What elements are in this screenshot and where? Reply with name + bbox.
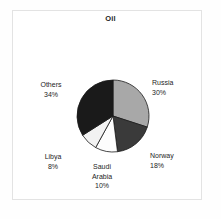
slice-label-libya-name: Libya xyxy=(45,153,62,160)
slice-label-saudi-arabia-name: Saudi Arabia xyxy=(92,163,112,180)
slice-label-norway-percent: 18% xyxy=(150,161,174,171)
slice-label-libya-percent: 8% xyxy=(38,162,68,172)
slice-label-russia-name: Russia xyxy=(152,79,173,86)
pie-chart-plot xyxy=(76,79,150,153)
slice-label-saudi-arabia-percent: 10% xyxy=(84,181,120,191)
slice-label-libya: Libya 8% xyxy=(38,152,68,171)
pie-chart-figure: Oil Russia 30% Norway 18% Saudi Arabia 1… xyxy=(0,0,221,219)
slice-label-saudi-arabia: Saudi Arabia 10% xyxy=(84,162,120,191)
slice-label-norway: Norway 18% xyxy=(150,151,174,170)
pie-slices xyxy=(77,80,149,152)
slice-label-russia-percent: 30% xyxy=(152,88,173,98)
chart-title: Oil xyxy=(0,14,221,23)
slice-label-russia: Russia 30% xyxy=(152,78,173,97)
slice-label-others-name: Others xyxy=(40,81,61,88)
slice-label-others-percent: 34% xyxy=(30,90,72,100)
slice-label-others: Others 34% xyxy=(30,80,72,99)
pie-svg xyxy=(76,79,150,153)
slice-label-norway-name: Norway xyxy=(150,152,174,159)
